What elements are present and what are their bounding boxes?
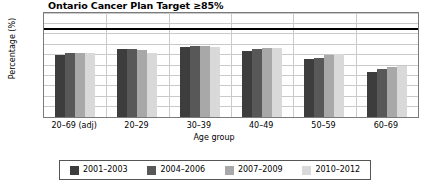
plot-area: 0102030405060708090100 bbox=[43, 12, 419, 118]
legend-item[interactable]: 2010–2012 bbox=[302, 166, 360, 175]
legend-label: 2004–2006 bbox=[160, 166, 205, 174]
bar[interactable] bbox=[65, 53, 75, 117]
bar[interactable] bbox=[127, 49, 137, 117]
bar[interactable] bbox=[304, 59, 314, 117]
bar[interactable] bbox=[367, 72, 377, 117]
bar[interactable] bbox=[180, 47, 190, 117]
legend-label: 2007–2009 bbox=[238, 166, 283, 174]
bar[interactable] bbox=[85, 53, 95, 117]
bar[interactable] bbox=[147, 53, 157, 117]
legend-label: 2001–2003 bbox=[83, 166, 128, 174]
bar[interactable] bbox=[137, 50, 147, 117]
bar[interactable] bbox=[242, 51, 252, 117]
legend-label: 2010–2012 bbox=[315, 166, 360, 174]
bar[interactable] bbox=[377, 69, 387, 117]
bar[interactable] bbox=[397, 66, 407, 117]
bar[interactable] bbox=[75, 53, 85, 117]
x-tick-label: 20–69 (adj) bbox=[43, 121, 105, 130]
x-tick-label: 40–49 bbox=[230, 121, 292, 130]
legend-item[interactable]: 2007–2009 bbox=[225, 166, 283, 175]
bar[interactable] bbox=[252, 49, 262, 117]
x-tick-label: 30–39 bbox=[168, 121, 230, 130]
bar[interactable] bbox=[210, 47, 220, 117]
bar[interactable] bbox=[314, 58, 324, 117]
legend-item[interactable]: 2004–2006 bbox=[147, 166, 205, 175]
bar[interactable] bbox=[117, 49, 127, 117]
x-tick-label: 50–59 bbox=[292, 121, 354, 130]
target-line bbox=[44, 28, 418, 30]
chart-figure: Ontario Cancer Plan Target ≥85% Percenta… bbox=[0, 0, 428, 187]
bar[interactable] bbox=[387, 67, 397, 117]
x-tick-label: 20–29 bbox=[105, 121, 167, 130]
bar[interactable] bbox=[190, 46, 200, 117]
legend-item[interactable]: 2001–2003 bbox=[70, 166, 128, 175]
y-axis-title: Percentage (%) bbox=[8, 4, 17, 94]
bar[interactable] bbox=[324, 55, 334, 117]
bar[interactable] bbox=[334, 54, 344, 117]
legend-swatch bbox=[225, 166, 234, 175]
chart-legend: 2001–20032004–20062007–20092010–2012 bbox=[59, 160, 371, 180]
bar[interactable] bbox=[200, 46, 210, 117]
bar[interactable] bbox=[272, 48, 282, 117]
chart-title: Ontario Cancer Plan Target ≥85% bbox=[48, 0, 224, 12]
bar[interactable] bbox=[262, 48, 272, 117]
x-axis-title: Age group bbox=[0, 133, 428, 142]
legend-swatch bbox=[70, 166, 79, 175]
legend-swatch bbox=[302, 166, 311, 175]
legend-swatch bbox=[147, 166, 156, 175]
bar[interactable] bbox=[55, 55, 65, 117]
x-tick-label: 60–69 bbox=[355, 121, 417, 130]
